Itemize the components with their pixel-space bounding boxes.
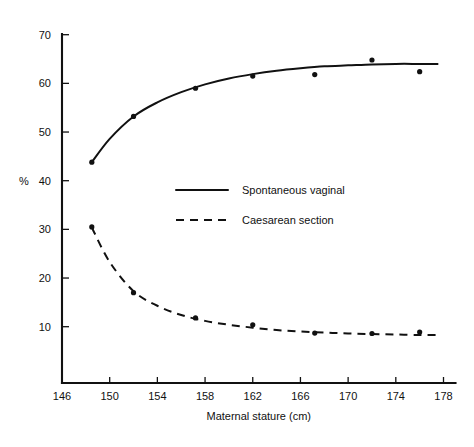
data-point-0-5 xyxy=(369,57,374,62)
series-curve-1 xyxy=(92,227,438,335)
x-axis-group: 146150154158162166170174178 xyxy=(53,377,456,402)
series-lines xyxy=(92,64,438,335)
x-tick-label: 174 xyxy=(387,390,405,402)
y-tick-label: 50 xyxy=(39,126,51,138)
data-point-1-2 xyxy=(193,315,198,320)
data-point-0-2 xyxy=(193,86,198,91)
data-point-0-6 xyxy=(417,69,422,74)
data-point-1-5 xyxy=(369,331,374,336)
legend-label-0: Spontaneous vaginal xyxy=(242,184,345,196)
y-tick-label: 60 xyxy=(39,77,51,89)
x-tick-label: 150 xyxy=(101,390,119,402)
x-tick-label: 166 xyxy=(291,390,309,402)
chart-canvas: 70605040302010 1461501541581621661701741… xyxy=(0,0,474,447)
y-tick-label: 10 xyxy=(39,321,51,333)
legend-label-1: Caesarean section xyxy=(242,214,334,226)
data-point-1-4 xyxy=(312,330,317,335)
y-tick-label: 20 xyxy=(39,272,51,284)
x-tick-label: 170 xyxy=(339,390,357,402)
y-axis-group: 70605040302010 xyxy=(39,29,69,383)
x-axis-tick-labels: 146150154158162166170174178 xyxy=(53,390,453,402)
x-tick-label: 146 xyxy=(53,390,71,402)
chart-figure: 70605040302010 1461501541581621661701741… xyxy=(0,0,474,447)
data-point-1-6 xyxy=(417,329,422,334)
data-point-0-4 xyxy=(312,72,317,77)
x-tick-label: 158 xyxy=(196,390,214,402)
data-point-0-3 xyxy=(250,73,255,78)
x-tick-label: 178 xyxy=(434,390,452,402)
y-tick-label: 40 xyxy=(39,175,51,187)
y-tick-label: 70 xyxy=(39,29,51,41)
y-tick-label: 30 xyxy=(39,223,51,235)
y-axis-tick-labels: 70605040302010 xyxy=(39,29,51,333)
data-point-1-0 xyxy=(89,224,94,229)
chart-legend: Spontaneous vaginalCaesarean section xyxy=(176,184,345,226)
x-axis-title: Maternal stature (cm) xyxy=(206,410,311,422)
series-data-points xyxy=(89,57,422,336)
series-curve-0 xyxy=(92,64,438,162)
y-axis-title: % xyxy=(19,175,29,187)
x-tick-label: 162 xyxy=(244,390,262,402)
data-point-0-0 xyxy=(89,160,94,165)
data-point-1-1 xyxy=(131,290,136,295)
data-point-0-1 xyxy=(131,114,136,119)
data-point-1-3 xyxy=(250,322,255,327)
x-tick-label: 154 xyxy=(148,390,166,402)
